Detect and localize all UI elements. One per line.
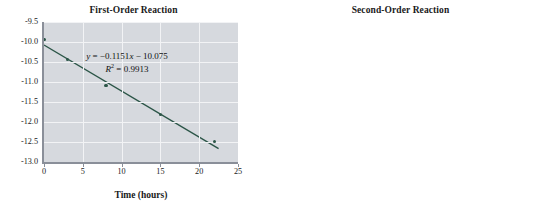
- equation-line-first-order: y = −0.1151x − 10.075: [62, 50, 192, 63]
- y-axis-line: [42, 22, 44, 162]
- x-tick-label: 5: [72, 168, 94, 176]
- gridline-horizontal: [44, 102, 238, 103]
- trendline-first-order: [44, 22, 238, 162]
- gridline-horizontal: [44, 142, 238, 143]
- data-point: [104, 84, 107, 87]
- gridline-vertical: [160, 22, 161, 162]
- x-tick-label: 15: [149, 168, 171, 176]
- x-tick-label: 10: [111, 168, 133, 176]
- y-tick-label: -12.0: [0, 118, 38, 126]
- y-tick-label: -13.0: [0, 158, 38, 166]
- chart-panel-second-order: Second-Order Reaction 05.0 × 1041.0 × 10…: [267, 0, 534, 211]
- x-tick-label: 25: [227, 168, 249, 176]
- chart-title-second-order: Second-Order Reaction: [267, 5, 534, 15]
- y-tick-label: -10.5: [0, 58, 38, 66]
- y-tick-label: -10.0: [0, 38, 38, 46]
- x-tick-label: 0: [33, 168, 55, 176]
- gridline-vertical: [199, 22, 200, 162]
- gridline-vertical: [83, 22, 84, 162]
- x-axis-title-first-order: Time (hours): [44, 190, 238, 200]
- data-point: [44, 38, 46, 41]
- gridline-horizontal: [44, 22, 238, 23]
- gridline-horizontal: [44, 122, 238, 123]
- gridline-vertical: [122, 22, 123, 162]
- gridline-horizontal: [44, 42, 238, 43]
- y-tick-label: -9.5: [0, 18, 38, 26]
- figure-container: First-Order Reaction -9.5-10.0-10.5-11.0…: [0, 0, 534, 211]
- plot-area-first-order: [44, 22, 238, 162]
- chart-title-first-order: First-Order Reaction: [0, 5, 267, 15]
- gridline-horizontal: [44, 82, 238, 83]
- y-tick-label: -11.0: [0, 78, 38, 86]
- y-tick-label: -11.5: [0, 98, 38, 106]
- chart-panel-first-order: First-Order Reaction -9.5-10.0-10.5-11.0…: [0, 0, 267, 211]
- x-tick-label: 20: [188, 168, 210, 176]
- x-axis-line: [42, 162, 238, 164]
- equation-annotation-first-order: y = −0.1151x − 10.075 R2 = 0.9913: [62, 50, 192, 76]
- y-tick-label: -12.5: [0, 138, 38, 146]
- r-squared-line-first-order: R2 = 0.9913: [62, 63, 192, 76]
- data-point: [159, 113, 162, 116]
